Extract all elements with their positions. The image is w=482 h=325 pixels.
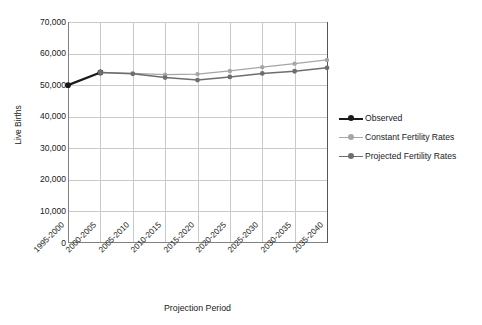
series-data-point [292, 61, 296, 65]
legend-label-constant-fertility-rates: Constant Fertility Rates [365, 132, 454, 142]
series-data-point [195, 78, 200, 83]
legend-swatch-projected-fertility-rates [339, 151, 363, 161]
series-data-point [227, 75, 232, 80]
legend-item-observed: Observed [339, 110, 482, 126]
series-data-point [163, 75, 168, 80]
legend-item-constant-fertility-rates: Constant Fertility Rates [339, 129, 482, 145]
legend-swatch-constant-fertility-rates [339, 132, 363, 142]
series-data-point [325, 58, 329, 62]
chart-legend: Observed Constant Fertility Rates Projec… [339, 110, 482, 167]
legend-label-observed: Observed [365, 113, 402, 123]
series-data-point [260, 71, 265, 76]
series-data-point [65, 82, 71, 88]
series-line [68, 73, 100, 86]
legend-label-projected-fertility-rates: Projected Fertility Rates [365, 151, 456, 161]
series-data-point [325, 65, 330, 70]
series-data-point [228, 69, 232, 73]
series-data-point [292, 69, 297, 74]
series-data-point [130, 71, 135, 76]
series-data-point [195, 72, 199, 76]
legend-swatch-observed [339, 113, 363, 123]
series-data-point [260, 65, 264, 69]
series-data-point [98, 70, 103, 75]
legend-item-projected-fertility-rates: Projected Fertility Rates [339, 148, 482, 164]
line-chart: 010,00020,00030,00040,00050,00060,00070,… [0, 0, 482, 325]
